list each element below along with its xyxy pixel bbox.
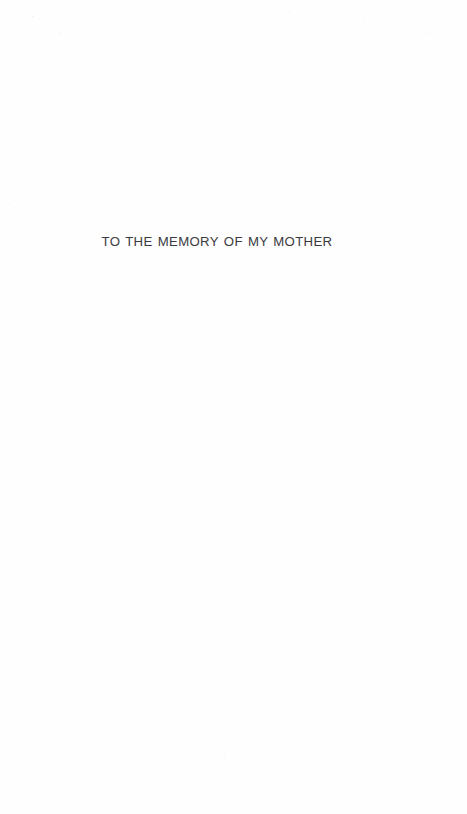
dedication-text: TO THE MEMORY OF MY MOTHER [102, 234, 333, 249]
scanned-page: TO THE MEMORY OF MY MOTHER [0, 0, 467, 814]
scan-noise-overlay [0, 0, 467, 814]
dedication-block: TO THE MEMORY OF MY MOTHER [0, 232, 434, 250]
